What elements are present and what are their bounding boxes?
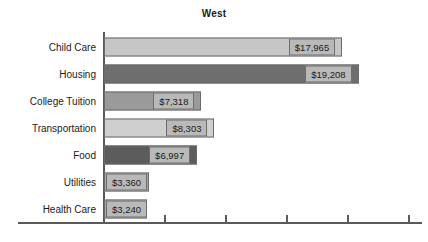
x-tick-1 [225,215,227,223]
bar-row: Transportation$8,303 [0,114,428,141]
bar-row: Utilities$3,360 [0,168,428,195]
bar-row: Food$6,997 [0,141,428,168]
category-label-housing: Housing [0,68,96,79]
x-tick-4 [408,215,410,223]
bar-row: Housing$19,208 [0,60,428,87]
category-label-college-tuition: College Tuition [0,95,96,106]
category-label-health-care: Health Care [0,203,96,214]
category-label-child-care: Child Care [0,41,96,52]
category-label-transportation: Transportation [0,122,96,133]
chart-title: West [0,8,428,19]
value-label-child-care: $17,965 [289,38,335,55]
bar-row: College Tuition$7,318 [0,87,428,114]
value-label-transportation: $8,303 [166,119,207,136]
x-tick-0 [164,215,166,223]
bar-rows: Child Care$17,965Housing$19,208College T… [0,33,428,222]
x-tick-2 [286,215,288,223]
value-label-college-tuition: $7,318 [153,92,194,109]
bar-chart: West Child Care$17,965Housing$19,208Coll… [0,0,428,242]
x-axis-line [18,222,422,224]
bar-row: Health Care$3,240 [0,195,428,222]
x-tick-3 [347,215,349,223]
category-label-utilities: Utilities [0,176,96,187]
value-label-housing: $19,208 [305,65,351,82]
bar-row: Child Care$17,965 [0,33,428,60]
value-label-utilities: $3,360 [106,173,147,190]
value-label-health-care: $3,240 [106,200,147,217]
category-label-food: Food [0,149,96,160]
value-label-food: $6,997 [149,146,190,163]
